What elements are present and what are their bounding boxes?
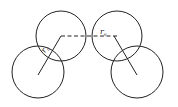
- lower-left-circle: [12, 46, 64, 98]
- circle-overlap-diagram: rc rv: [0, 0, 178, 107]
- lower-right-circle: [111, 46, 163, 98]
- label-r-c: rc: [39, 44, 51, 55]
- label-r-v: rv: [100, 27, 107, 37]
